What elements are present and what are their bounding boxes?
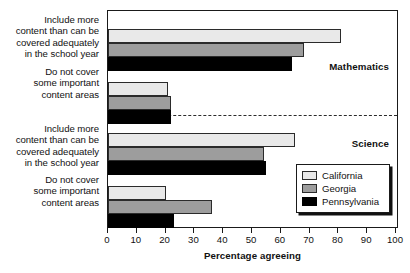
category-label-math-donotcover: Do not cover some important content area…	[0, 66, 99, 100]
x-tick	[136, 228, 137, 233]
x-tick	[280, 228, 281, 233]
x-tick-label: 10	[130, 234, 141, 245]
x-tick-label: 100	[387, 234, 403, 245]
bar-california-group2	[108, 133, 295, 147]
category-label-science-include: Include more content than can be covered…	[0, 123, 99, 168]
category-label-line: content areas	[0, 89, 99, 100]
legend-swatch-icon-pennsylvania	[302, 197, 317, 206]
x-tick	[193, 228, 194, 233]
x-tick-label: 40	[217, 234, 228, 245]
category-label-science-donotcover: Do not cover some important content area…	[0, 174, 99, 208]
legend-swatch-icon-california	[302, 171, 317, 180]
legend-item-california: California	[302, 169, 384, 182]
category-label-line: some important	[0, 185, 99, 196]
bar-georgia-group0	[108, 43, 304, 57]
legend-label: Pennsylvania	[322, 196, 379, 207]
bar-georgia-group2	[108, 147, 264, 161]
bar-pennsylvania-group2	[108, 161, 266, 175]
x-tick	[251, 228, 252, 233]
category-label-line: content than can be	[0, 134, 99, 145]
bar-georgia-group3	[108, 200, 212, 214]
panel-label-science: Science	[352, 138, 389, 149]
category-label-line: covered adequately	[0, 37, 99, 48]
x-tick	[222, 228, 223, 233]
legend-item-georgia: Georgia	[302, 182, 384, 195]
category-label-line: Include more	[0, 123, 99, 134]
category-label-line: Do not cover	[0, 66, 99, 77]
category-label-line: in the school year	[0, 48, 99, 59]
legend: California Georgia Pennsylvania	[296, 164, 390, 213]
bar-pennsylvania-group1	[108, 110, 171, 124]
category-label-line: some important	[0, 77, 99, 88]
x-tick-label: 80	[332, 234, 343, 245]
bar-georgia-group1	[108, 96, 171, 110]
panel-label-mathematics: Mathematics	[329, 61, 389, 72]
category-label-line: covered adequately	[0, 146, 99, 157]
legend-label: California	[322, 170, 363, 181]
x-tick-label: 30	[188, 234, 199, 245]
x-tick-label: 50	[246, 234, 257, 245]
bar-california-group3	[108, 186, 166, 200]
legend-item-pennsylvania: Pennsylvania	[302, 195, 384, 208]
x-axis-tick-labels: 0102030405060708090100	[107, 234, 398, 248]
category-label-column: Include more content than can be covered…	[0, 10, 103, 228]
x-tick	[309, 228, 310, 233]
bar-chart-figure: Include more content than can be covered…	[0, 0, 410, 273]
x-tick-label: 90	[361, 234, 372, 245]
x-axis-title: Percentage agreeing	[107, 250, 398, 261]
legend-label: Georgia	[322, 183, 356, 194]
bar-california-group0	[108, 29, 341, 43]
x-tick	[165, 228, 166, 233]
category-label-line: content than can be	[0, 25, 99, 36]
x-tick-label: 70	[303, 234, 314, 245]
bar-pennsylvania-group0	[108, 57, 292, 71]
category-label-line: Include more	[0, 14, 99, 25]
category-label-line: in the school year	[0, 157, 99, 168]
x-tick	[107, 228, 108, 233]
x-tick-label: 0	[104, 234, 109, 245]
x-tick	[395, 228, 396, 233]
x-tick	[366, 228, 367, 233]
bar-pennsylvania-group3	[108, 214, 174, 228]
x-tick-label: 20	[159, 234, 170, 245]
legend-swatch-icon-georgia	[302, 184, 317, 193]
x-tick	[337, 228, 338, 233]
category-label-math-include: Include more content than can be covered…	[0, 14, 99, 59]
bar-california-group1	[108, 82, 168, 96]
x-tick-label: 60	[274, 234, 285, 245]
category-label-line: content areas	[0, 197, 99, 208]
category-label-line: Do not cover	[0, 174, 99, 185]
